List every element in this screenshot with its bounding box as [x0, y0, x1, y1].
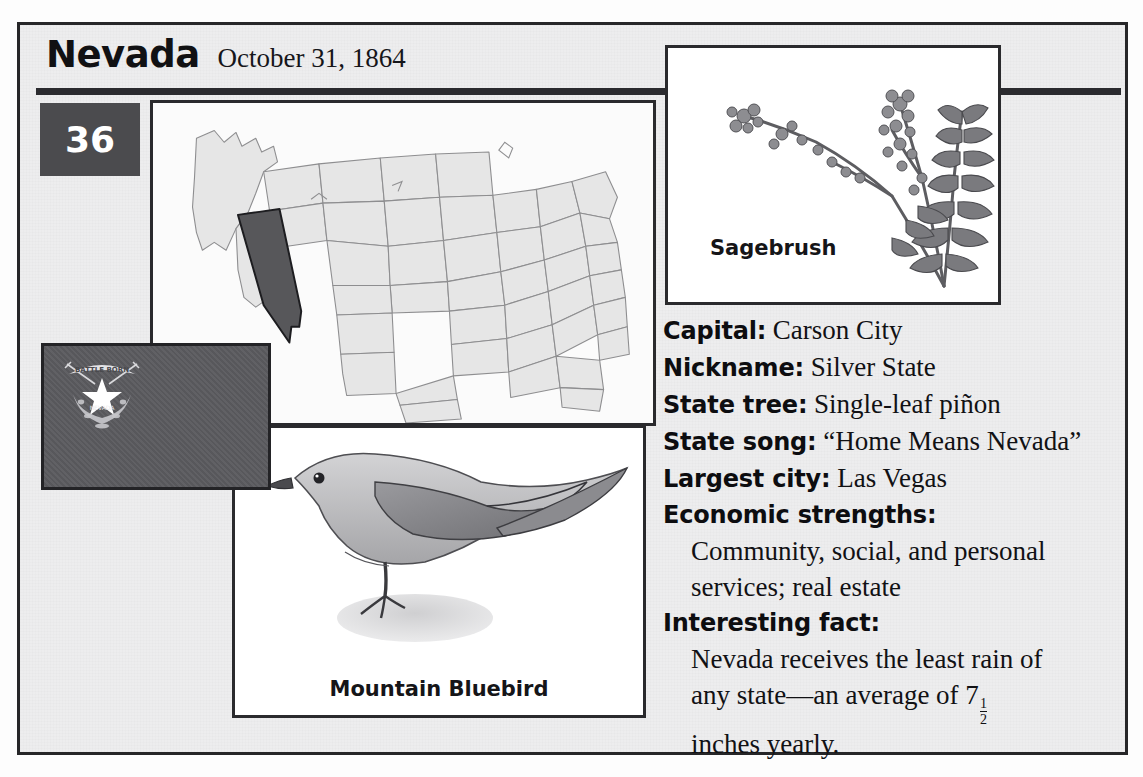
fact-capital-value: Carson City [773, 315, 903, 345]
fraction-numerator: 1 [980, 696, 987, 710]
statehood-order-badge: 36 [40, 103, 140, 176]
battle-born-emblem-icon: BATTLE BORN NEVADA [55, 354, 149, 440]
fact-economic-strengths-line-1: Community, social, and personal [663, 533, 1118, 569]
bluebird-icon [235, 432, 646, 662]
fact-state-tree-value: Single-leaf piñon [814, 389, 1001, 419]
fact-state-tree: State tree: Single-leaf piñon [663, 386, 1118, 423]
state-flower-panel: Sagebrush [665, 45, 1001, 305]
fact-interesting-fact-line-3: inches yearly. [663, 726, 1118, 762]
flag-motto-text: BATTLE BORN [75, 366, 129, 374]
fact-nickname: Nickname: Silver State [663, 349, 1118, 386]
fact-state-song: State song: “Home Means Nevada” [663, 423, 1118, 460]
fact-capital-label: Capital: [663, 317, 766, 345]
card-header: Nevada October 31, 1864 [46, 36, 406, 73]
statehood-order-number: 36 [65, 122, 115, 158]
state-flower-caption: Sagebrush [710, 236, 836, 260]
fact-largest-city-value: Las Vegas [837, 463, 947, 493]
fact-state-song-label: State song: [663, 428, 817, 456]
sagebrush-illustration [696, 68, 1001, 298]
nevada-state-flag-panel: BATTLE BORN NEVADA [41, 343, 271, 490]
fraction-one-half: 12 [980, 696, 987, 726]
sagebrush-icon [696, 68, 1001, 298]
fact-state-tree-label: State tree: [663, 391, 807, 419]
fact-state-song-value: “Home Means Nevada” [823, 426, 1081, 456]
fraction-denominator: 2 [980, 711, 987, 726]
state-bird-caption: Mountain Bluebird [235, 677, 643, 701]
state-bird-panel: Mountain Bluebird [232, 425, 646, 718]
state-fact-card: Nevada October 31, 1864 36 [0, 0, 1143, 777]
fact-economic-strengths-line-2: services; real estate [663, 569, 1118, 605]
statehood-date: October 31, 1864 [218, 45, 406, 72]
fact-interesting-fact-line-2-text: any state—an average of 7 [691, 680, 979, 710]
fact-nickname-value: Silver State [811, 352, 936, 382]
fact-largest-city-label: Largest city: [663, 465, 830, 493]
svg-text:NEVADA: NEVADA [90, 404, 116, 411]
flag-emblem: BATTLE BORN NEVADA [55, 354, 149, 440]
fact-nickname-label: Nickname: [663, 354, 804, 382]
mountain-bluebird-illustration [235, 432, 646, 662]
fact-interesting-fact-line-2: any state—an average of 712 [663, 677, 1118, 726]
facts-list: Capital: Carson City Nickname: Silver St… [663, 312, 1118, 762]
fact-capital: Capital: Carson City [663, 312, 1118, 349]
fact-largest-city: Largest city: Las Vegas [663, 460, 1118, 497]
fact-interesting-fact-line-1: Nevada receives the least rain of [663, 641, 1118, 677]
page-title: Nevada [46, 36, 200, 73]
fact-economic-strengths-label: Economic strengths: [663, 497, 1118, 533]
fact-interesting-fact-label: Interesting fact: [663, 605, 1118, 641]
